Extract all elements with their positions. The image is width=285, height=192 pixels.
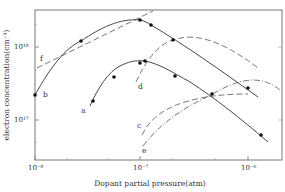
x-axis-ticks [35, 156, 248, 160]
curve-a [90, 61, 268, 142]
markers-d [171, 38, 175, 42]
curve-label-c: c [137, 121, 141, 130]
x-tick-label: 10⁻⁶ [241, 164, 257, 172]
plot-frame [35, 10, 282, 160]
x-tick-label: 10⁻⁸ [28, 164, 44, 172]
y-tick-label: 10¹⁸ [14, 43, 29, 51]
curve-label-d: d [138, 82, 143, 91]
curve-label-b: b [43, 90, 48, 99]
curve-label-e: e [142, 146, 147, 155]
markers-a [91, 59, 263, 137]
curve-label-f: f [40, 54, 44, 63]
chart: 10⁻⁸ 10⁻⁷ 10⁻⁶ 10¹⁸ 10¹⁷ Dopant partial … [0, 0, 285, 192]
y-axis-ticks [35, 25, 282, 142]
curve-d [136, 37, 258, 82]
y-tick-label: 10¹⁷ [14, 116, 29, 124]
curve-e [143, 80, 280, 146]
x-axis-label: Dopant partial pressure(atm) [94, 179, 205, 188]
curve-b [35, 20, 258, 97]
y-axis-label: electron concentration(cm⁻³) [2, 30, 11, 141]
curve-label-a: a [81, 106, 86, 115]
x-tick-label: 10⁻⁷ [133, 164, 149, 172]
